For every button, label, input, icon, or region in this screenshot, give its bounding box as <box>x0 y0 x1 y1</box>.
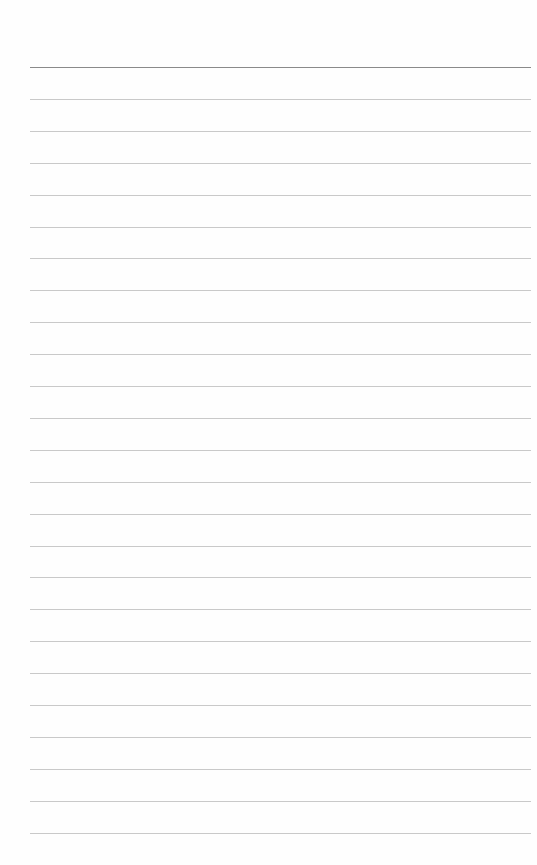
rule-line <box>30 801 531 802</box>
rule-line <box>30 258 531 259</box>
rule-line <box>30 227 531 228</box>
rule-line <box>30 641 531 642</box>
rule-line <box>30 386 531 387</box>
rule-line <box>30 195 531 196</box>
lined-paper-page <box>0 0 537 865</box>
rule-line <box>30 450 531 451</box>
rule-line <box>30 514 531 515</box>
rule-line <box>30 99 531 100</box>
rule-line <box>30 418 531 419</box>
rule-line <box>30 322 531 323</box>
rule-line <box>30 577 531 578</box>
rule-line <box>30 673 531 674</box>
rule-line <box>30 290 531 291</box>
header-rule-line <box>30 67 531 68</box>
rule-line <box>30 737 531 738</box>
rule-line <box>30 131 531 132</box>
rule-line <box>30 609 531 610</box>
rule-line <box>30 354 531 355</box>
rule-line <box>30 705 531 706</box>
rule-line <box>30 482 531 483</box>
rule-line <box>30 833 531 834</box>
rule-line <box>30 546 531 547</box>
rule-line <box>30 163 531 164</box>
rule-line <box>30 769 531 770</box>
